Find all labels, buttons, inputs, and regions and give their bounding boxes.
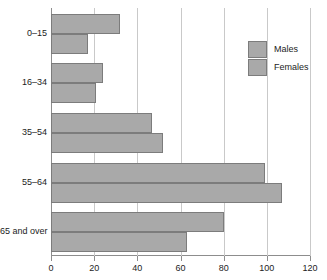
bar-males-1 <box>51 63 103 83</box>
bar-females-0 <box>51 34 88 54</box>
x-axis-tick-label: 120 <box>302 263 317 273</box>
x-axis-tick-label: 20 <box>89 263 99 273</box>
x-axis-tick-label: 80 <box>219 263 229 273</box>
bar-group <box>51 63 310 103</box>
bar-females-1 <box>51 83 96 103</box>
plot-area <box>51 8 310 256</box>
x-axis-tick <box>94 256 95 261</box>
x-axis-tick <box>224 256 225 261</box>
bar-males-4 <box>51 212 224 232</box>
category-label: 0–15 <box>0 28 47 38</box>
bar-males-0 <box>51 14 120 34</box>
x-axis-tick <box>267 256 268 261</box>
bar-females-4 <box>51 232 187 252</box>
legend-swatch-males <box>248 41 267 58</box>
bar-females-2 <box>51 133 163 153</box>
category-label: 35–54 <box>0 127 47 137</box>
category-label: 65 and over <box>0 226 47 236</box>
bar-males-2 <box>51 113 152 133</box>
category-label: 16–34 <box>0 77 47 87</box>
category-label: 55–64 <box>0 177 47 187</box>
bar-chart: 020406080100120 0–1516–3435–5455–6465 an… <box>0 0 327 280</box>
legend-swatch-females <box>248 59 267 76</box>
x-axis-tick-label: 60 <box>175 263 185 273</box>
bar-group <box>51 113 310 153</box>
x-axis-tick <box>137 256 138 261</box>
legend-label-males: Males <box>274 44 298 54</box>
bar-group <box>51 14 310 54</box>
legend-label-females: Females <box>274 62 309 72</box>
bar-males-3 <box>51 163 265 183</box>
bar-group <box>51 212 310 252</box>
x-axis-tick-label: 100 <box>259 263 274 273</box>
bar-females-3 <box>51 183 282 203</box>
x-axis-tick-label: 40 <box>132 263 142 273</box>
x-axis-tick-label: 0 <box>48 263 53 273</box>
x-axis-tick <box>181 256 182 261</box>
bar-group <box>51 163 310 203</box>
gridline <box>310 8 311 256</box>
x-axis-tick <box>310 256 311 261</box>
x-axis-tick <box>51 256 52 261</box>
